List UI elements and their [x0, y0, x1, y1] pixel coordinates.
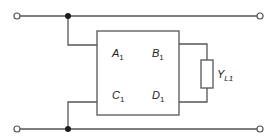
load-top-wire	[179, 44, 207, 60]
bottom-junction-wire	[68, 102, 97, 129]
output-top-terminal	[257, 13, 263, 19]
top-junction-dot	[65, 13, 71, 19]
load-label: YL1	[217, 68, 233, 83]
top-junction-wire	[68, 16, 97, 45]
two-port-box	[97, 31, 179, 115]
load-admittance-element	[201, 60, 213, 88]
output-bottom-terminal	[257, 126, 263, 132]
load-bottom-wire	[179, 88, 207, 102]
circuit-diagram: A1 B1 C1 D1 YL1	[0, 0, 277, 139]
input-top-terminal	[14, 13, 20, 19]
bottom-junction-dot	[65, 126, 71, 132]
input-bottom-terminal	[14, 126, 20, 132]
